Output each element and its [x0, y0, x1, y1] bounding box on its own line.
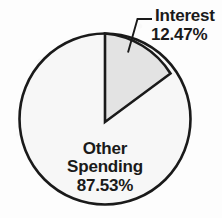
pie-chart-figure: Interest 12.47% Other Spending 87.53% — [0, 0, 222, 218]
slice-label-interest-name: Interest — [155, 6, 215, 25]
slice-label-other-spending-name-line2: Spending — [37, 158, 173, 176]
slice-label-other-spending: Other Spending 87.53% — [37, 140, 173, 195]
slice-label-interest-value: 12.47% — [151, 26, 215, 44]
slice-label-interest: Interest 12.47% — [155, 7, 215, 45]
slice-label-other-spending-name-line1: Other — [37, 140, 173, 158]
slice-label-other-spending-value: 87.53% — [37, 177, 173, 195]
